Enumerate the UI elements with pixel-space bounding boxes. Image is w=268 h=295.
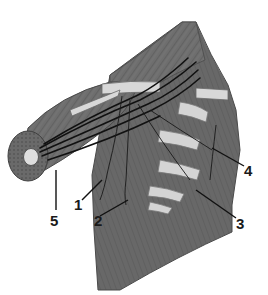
label-5: 5 bbox=[50, 213, 58, 228]
shoulder-illustration bbox=[0, 0, 268, 295]
humerus-cross-section bbox=[24, 149, 39, 166]
label-1: 1 bbox=[74, 197, 82, 212]
anatomical-figure bbox=[0, 0, 268, 295]
label-4: 4 bbox=[244, 163, 252, 178]
label-2: 2 bbox=[94, 213, 102, 228]
label-3: 3 bbox=[236, 216, 244, 231]
